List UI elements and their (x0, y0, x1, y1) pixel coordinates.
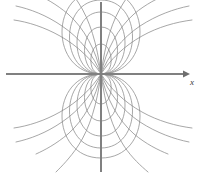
plot-canvas (0, 0, 204, 179)
arc-upper-left-4 (56, 0, 101, 74)
equipotential-arc-family (14, 0, 192, 172)
arc-group-upper-left (14, 0, 101, 74)
dipole-field-figure: x (0, 0, 204, 179)
arc-upper-right-1 (101, 20, 192, 74)
arc-group-lower-right (101, 74, 192, 172)
x-axis-arrowhead (183, 71, 190, 78)
x-axis-label: x (190, 78, 194, 87)
arc-lower-right-1 (101, 74, 192, 128)
arc-group-lower-left (14, 74, 101, 172)
